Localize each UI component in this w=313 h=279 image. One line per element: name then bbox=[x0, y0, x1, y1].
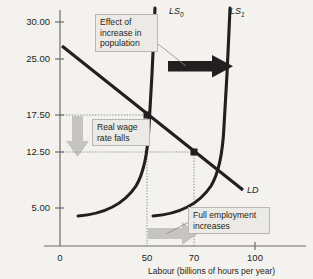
callout-population-line3: population bbox=[100, 38, 153, 49]
callout-wage-line2: rate falls bbox=[97, 133, 145, 144]
y-tick-label-25: 25.00 bbox=[10, 53, 50, 64]
y-tick-label-5: 5.00 bbox=[10, 202, 50, 213]
equilibrium-marker-initial bbox=[144, 112, 151, 119]
x-tick-label-0: 0 bbox=[45, 252, 75, 263]
callout-population-line1: Effect of bbox=[100, 17, 153, 28]
y-tick-label-17-5: 17.50 bbox=[10, 109, 50, 120]
y-tick-label-12-5: 12.50 bbox=[10, 146, 50, 157]
ls1-curve-label: LS1 bbox=[230, 6, 245, 18]
ld-curve-label: LD bbox=[247, 185, 259, 195]
ls1-label-sub: 1 bbox=[241, 11, 245, 18]
ls0-label-text: LS bbox=[169, 6, 180, 16]
ls0-label-sub: 0 bbox=[180, 11, 184, 18]
ls0-curve-label: LS0 bbox=[169, 6, 184, 18]
ls1-label-text: LS bbox=[230, 6, 241, 16]
x-tick-label-100: 100 bbox=[240, 252, 270, 263]
callout-population-line2: increase in bbox=[100, 28, 153, 39]
callout-population: Effect of increase in population bbox=[95, 14, 158, 52]
x-tick-label-50: 50 bbox=[132, 252, 162, 263]
callout-employment-line1: Full employment bbox=[193, 210, 265, 221]
callout-wage-line1: Real wage bbox=[97, 122, 145, 133]
x-axis-title: Labour (billions of hours per year) bbox=[148, 266, 275, 276]
x-tick-label-70: 70 bbox=[179, 252, 209, 263]
callout-wage: Real wage rate falls bbox=[92, 119, 150, 146]
callout-employment-line2: increases bbox=[193, 221, 265, 232]
callout-employment: Full employment increases bbox=[188, 207, 270, 234]
y-tick-label-30: 30.00 bbox=[10, 16, 50, 27]
equilibrium-marker-new bbox=[191, 149, 198, 156]
